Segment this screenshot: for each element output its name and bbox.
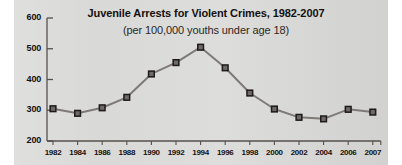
marker-core (297, 115, 301, 119)
plot-svg (0, 0, 402, 165)
chart-screenshot: Juvenile Arrests for Violent Crimes, 198… (0, 0, 402, 165)
data-point-marker (74, 110, 81, 117)
series-layer (49, 44, 376, 123)
y-axis-label: 200 (13, 135, 41, 145)
x-axis-label: 2006 (340, 148, 357, 157)
data-point-marker (197, 44, 204, 51)
marker-core (272, 107, 276, 111)
marker-core (174, 60, 178, 64)
data-point-marker (99, 104, 106, 111)
y-axis-label: 400 (13, 74, 41, 84)
x-axis-label: 2002 (291, 148, 308, 157)
x-axis-label: 1994 (192, 148, 209, 157)
data-point-marker (148, 70, 155, 77)
x-axis-label: 1984 (69, 148, 86, 157)
x-axis-label: 1992 (168, 148, 185, 157)
marker-core (100, 106, 104, 110)
marker-core (322, 117, 326, 121)
data-point-marker (172, 59, 179, 66)
marker-core (125, 95, 129, 99)
data-point-marker (295, 114, 302, 121)
y-axis-label: 600 (13, 12, 41, 22)
data-point-marker (246, 89, 253, 96)
marker-core (76, 111, 80, 115)
axis-layer (47, 18, 381, 145)
x-axis-label: 1990 (143, 148, 160, 157)
x-axis-label: 1998 (241, 148, 258, 157)
x-axis-label: 2004 (315, 148, 332, 157)
data-point-marker (49, 105, 56, 112)
y-axis-label: 500 (13, 43, 41, 53)
data-point-marker (222, 64, 229, 71)
data-point-marker (271, 105, 278, 112)
marker-core (223, 66, 227, 70)
marker-core (199, 45, 203, 49)
data-point-marker (369, 108, 376, 115)
marker-core (371, 110, 375, 114)
marker-core (346, 107, 350, 111)
marker-core (149, 72, 153, 76)
x-axis-label: 1988 (118, 148, 135, 157)
data-point-marker (320, 115, 327, 122)
marker-core (248, 91, 252, 95)
x-axis-label: 1986 (94, 148, 111, 157)
x-axis-label: 1996 (217, 148, 234, 157)
marker-core (51, 107, 55, 111)
data-point-marker (345, 106, 352, 113)
x-axis-label: 2000 (266, 148, 283, 157)
y-axis-label: 300 (13, 104, 41, 114)
x-axis-label: 2007 (364, 148, 381, 157)
data-point-marker (123, 94, 130, 101)
x-axis-label: 1982 (45, 148, 62, 157)
